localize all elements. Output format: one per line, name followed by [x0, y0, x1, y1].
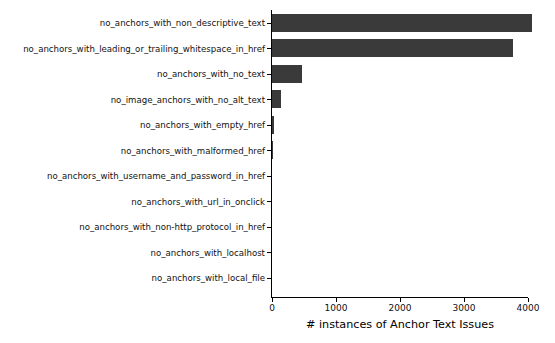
y-tick-label: no_image_anchors_with_no_alt_text — [111, 95, 265, 105]
x-axis-title: # instances of Anchor Text Issues — [272, 318, 528, 331]
x-tick-label: 3000 — [434, 303, 494, 314]
x-tick-mark — [336, 298, 337, 302]
y-tick-label: no_anchors_with_malformed_href — [121, 146, 265, 156]
bar — [272, 14, 532, 32]
bar-chart: no_anchors_with_non_descriptive_text no_… — [0, 0, 555, 343]
x-tick-mark — [464, 298, 465, 302]
y-tick-label: no_anchors_with_empty_href — [140, 120, 265, 130]
x-tick-mark — [400, 298, 401, 302]
y-tick-label: no_anchors_with_local_file — [152, 273, 265, 283]
y-tick-label: no_anchors_with_leading_or_trailing_whit… — [23, 44, 265, 54]
y-axis-tick-labels: no_anchors_with_non_descriptive_text no_… — [0, 0, 265, 343]
x-tick-label: 2000 — [370, 303, 430, 314]
x-tick-label: 0 — [242, 303, 302, 314]
plot-area — [272, 10, 528, 298]
x-tick-label: 4000 — [498, 303, 555, 314]
x-tick-mark — [272, 298, 273, 302]
bar — [272, 39, 513, 57]
bar — [272, 90, 281, 108]
y-tick-label: no_anchors_with_url_in_onclick — [131, 197, 265, 207]
x-tick-label: 1000 — [306, 303, 366, 314]
bar — [272, 116, 274, 134]
bar — [272, 65, 302, 83]
x-tick-mark — [528, 298, 529, 302]
y-tick-label: no_anchors_with_username_and_password_in… — [47, 171, 265, 181]
y-tick-label: no_anchors_with_non_descriptive_text — [100, 18, 265, 28]
y-tick-label: no_anchors_with_no_text — [157, 69, 265, 79]
bar — [272, 141, 273, 159]
y-tick-label: no_anchors_with_non-http_protocol_in_hre… — [79, 222, 265, 232]
y-tick-label: no_anchors_with_localhost — [150, 248, 265, 258]
